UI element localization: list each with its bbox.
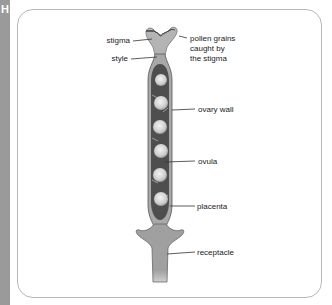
label-stigma: stigma <box>106 36 130 45</box>
ovule-icon <box>153 120 167 134</box>
label-style: style <box>112 54 129 63</box>
stigma-shape <box>146 27 177 55</box>
label-pollen-line3: the stigma <box>190 54 227 63</box>
ovule-icon <box>155 74 167 86</box>
ovule-icon <box>154 192 168 206</box>
label-pollen-line2: caught by <box>190 44 225 53</box>
pistil-diagram: stigma style pollen grains caught by the… <box>0 0 332 305</box>
ovule-icon <box>153 168 167 182</box>
ovule-icon <box>154 96 168 110</box>
label-receptacle: receptacle <box>197 248 234 257</box>
label-ovula: ovula <box>198 157 218 166</box>
label-placenta: placenta <box>197 202 228 211</box>
label-pollen-line1: pollen grains <box>190 34 235 43</box>
ovule-icon <box>154 144 168 158</box>
label-ovary-wall: ovary wall <box>198 105 234 114</box>
